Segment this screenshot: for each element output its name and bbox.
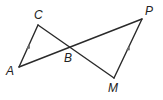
- point-label-c: C: [34, 9, 43, 21]
- point-label-m: M: [108, 82, 118, 94]
- segment-cm: [38, 25, 114, 78]
- point-label-p: P: [145, 5, 153, 17]
- point-label-a: A: [6, 65, 14, 77]
- parallel-arrow-icon: [26, 44, 30, 50]
- parallel-arrow-icon: [126, 45, 130, 50]
- point-label-b: B: [64, 52, 72, 64]
- geometry-diagram: [0, 0, 163, 100]
